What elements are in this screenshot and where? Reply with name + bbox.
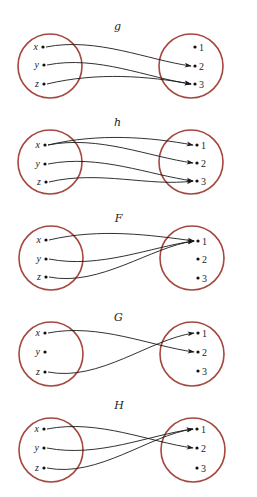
diagrams-root: gxyz123hxyz123Fxyz123Gxyz123Hxyz123 <box>18 20 225 482</box>
codomain-point-2 <box>196 350 199 353</box>
domain-label: z <box>36 271 41 282</box>
mapping-arrow-z-to-1 <box>48 333 194 374</box>
codomain-point-1 <box>195 143 198 146</box>
domain-label: x <box>36 234 42 245</box>
codomain-point-3 <box>195 179 198 182</box>
domain-point-x <box>41 45 44 48</box>
domain-point-x <box>43 143 46 146</box>
codomain-label: 2 <box>201 158 206 169</box>
mapping-arrow-x-to-1 <box>49 233 194 241</box>
codomain-label: 1 <box>199 42 204 53</box>
diagram-h: hxyz123 <box>18 116 223 194</box>
mapping-arrow-x-to-2 <box>48 331 194 352</box>
domain-label: z <box>34 462 39 473</box>
codomain-label: 1 <box>202 328 207 339</box>
domain-label: x <box>35 327 41 338</box>
codomain-set-circle <box>161 418 225 482</box>
codomain-label: 3 <box>202 273 207 284</box>
codomain-set-circle <box>159 130 223 194</box>
codomain-point-2 <box>195 161 198 164</box>
domain-label: z <box>36 176 41 187</box>
codomain-label: 3 <box>199 79 204 90</box>
codomain-point-3 <box>195 466 198 469</box>
diagram-title: F <box>114 212 123 225</box>
domain-point-z <box>44 275 47 278</box>
domain-point-x <box>43 331 46 334</box>
codomain-label: 2 <box>202 347 207 358</box>
codomain-point-1 <box>193 45 196 48</box>
function-mapping-diagrams: gxyz123hxyz123Fxyz123Gxyz123Hxyz123 <box>0 0 257 497</box>
diagram-G: Gxyz123 <box>19 311 224 386</box>
domain-point-y <box>42 446 45 449</box>
domain-point-z <box>42 466 45 469</box>
codomain-point-3 <box>196 369 199 372</box>
domain-label: x <box>34 423 40 434</box>
codomain-label: 2 <box>201 443 206 454</box>
domain-set-circle <box>18 34 82 98</box>
codomain-set-circle <box>160 226 224 290</box>
diagram-title: G <box>114 311 123 324</box>
diagram-title: H <box>113 399 124 412</box>
domain-label: y <box>34 442 40 453</box>
diagram-H: Hxyz123 <box>19 399 225 482</box>
codomain-point-3 <box>193 82 196 85</box>
codomain-label: 2 <box>202 254 207 265</box>
codomain-label: 1 <box>201 424 206 435</box>
codomain-label: 3 <box>201 176 206 187</box>
codomain-label: 3 <box>201 463 206 474</box>
codomain-point-1 <box>195 427 198 430</box>
diagram-g: gxyz123 <box>18 20 223 98</box>
mapping-arrow-y-to-3 <box>48 161 193 181</box>
mapping-arrow-z-to-1 <box>49 241 194 279</box>
mapping-arrow-z-to-3 <box>47 76 191 84</box>
codomain-point-2 <box>195 446 198 449</box>
domain-set-circle <box>18 130 82 194</box>
domain-label: x <box>35 139 41 150</box>
codomain-label: 2 <box>199 61 204 72</box>
domain-point-z <box>44 180 47 183</box>
codomain-point-2 <box>193 64 196 67</box>
domain-point-z <box>42 82 45 85</box>
codomain-label: 1 <box>202 236 207 247</box>
mapping-arrow-z-to-1 <box>47 429 193 470</box>
codomain-label: 1 <box>201 140 206 151</box>
domain-set-circle <box>19 322 83 386</box>
domain-point-y <box>42 63 45 66</box>
mapping-arrow-x-to-1 <box>48 137 193 145</box>
diagram-F: Fxyz123 <box>19 212 224 290</box>
domain-label: y <box>35 158 41 169</box>
domain-point-y <box>44 257 47 260</box>
domain-point-y <box>43 162 46 165</box>
codomain-point-1 <box>196 331 199 334</box>
codomain-label: 3 <box>202 366 207 377</box>
domain-label: y <box>34 59 40 70</box>
domain-point-y <box>43 350 46 353</box>
codomain-point-1 <box>196 239 199 242</box>
mapping-arrow-x-to-2 <box>48 142 193 163</box>
domain-label: z <box>34 78 39 89</box>
domain-set-circle <box>19 418 83 482</box>
domain-point-z <box>43 370 46 373</box>
domain-label: x <box>33 41 39 52</box>
codomain-point-2 <box>196 257 199 260</box>
codomain-point-3 <box>196 276 199 279</box>
codomain-set-circle <box>160 322 224 386</box>
mapping-arrow-z-to-3 <box>49 178 193 183</box>
domain-label: z <box>35 366 40 377</box>
diagram-title: h <box>114 116 121 129</box>
domain-label: y <box>35 346 41 357</box>
domain-point-x <box>42 427 45 430</box>
mapping-arrow-y-to-1 <box>49 241 194 262</box>
domain-label: y <box>36 253 42 264</box>
diagram-title: g <box>114 20 121 33</box>
domain-point-x <box>44 238 47 241</box>
